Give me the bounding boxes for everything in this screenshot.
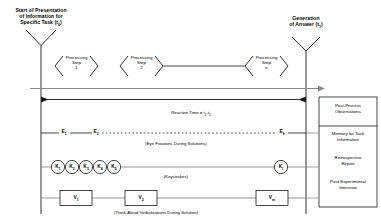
figure-canvas: Start of Presentation of Information for…	[0, 0, 381, 223]
start-marker-label-line2: of Information for	[19, 13, 62, 19]
start-marker-label-paren: )	[60, 19, 62, 25]
verbalization-node-v2: V2	[134, 195, 148, 203]
post-process-panel-header-line2: Observations	[335, 109, 361, 114]
keystroke-node-k5: K5	[107, 164, 121, 172]
end-marker-label-paren: )	[321, 21, 323, 27]
verbalization-node-v1-sub: 1	[77, 198, 79, 202]
verbalization-caption: (Think-Aloud Verbalizations During Solut…	[86, 210, 226, 215]
processing-step-n-number: n	[265, 65, 267, 70]
post-process-item-interview-line2: Interview	[339, 185, 357, 190]
post-process-item-memory-line1: Memory for Task	[332, 131, 364, 136]
keystroke-node-k3: K3	[79, 164, 93, 172]
end-marker-label-line2: of Answer (t	[289, 21, 319, 27]
keystroke-node-k1-sub: 1	[59, 167, 61, 171]
eye-fixation-node-e1-sub: 1	[65, 131, 67, 135]
end-marker-label-line1: Generation	[292, 15, 319, 21]
processing-step-n-label: Processing Step n	[246, 55, 287, 71]
post-process-panel-header: Post-Process Observations	[320, 103, 376, 114]
verbalization-node-vm: Vm	[265, 195, 279, 203]
keystroke-node-k3-sub: 3	[87, 167, 89, 171]
keystroke-node-k4: K4	[93, 164, 107, 172]
keystroke-node-kl-sub: l	[282, 167, 283, 171]
start-marker-label-line1: Start of Presentation	[15, 7, 66, 13]
eye-fixation-node-e2: E2	[89, 129, 103, 137]
verbalization-node-vm-sub: m	[272, 198, 275, 202]
verbalization-node-v2-sub: 2	[142, 198, 144, 202]
keystroke-node-k1: K1	[51, 164, 65, 172]
post-process-panel-header-line1: Post-Process	[335, 103, 361, 108]
reaction-time-sub-b: 0	[209, 113, 211, 117]
post-process-item-retrospective-line2: Report	[341, 161, 354, 166]
start-marker-label: Start of Presentation of Information for…	[0, 7, 85, 29]
keystroke-caption: (Keystrokes)	[141, 174, 211, 179]
end-marker-vee	[292, 37, 320, 214]
reaction-time-arrowhead-right	[299, 97, 307, 103]
end-marker-label: Generation of Answer (t1)	[271, 15, 341, 30]
eye-fixation-node-e1: E1	[57, 129, 71, 137]
reaction-time-arrowhead-left	[41, 97, 49, 103]
eye-fixation-node-ek-sub: k	[283, 131, 285, 135]
processing-step-2-label: Processing Step 2	[121, 55, 162, 71]
reaction-time-text-a: Reaction Time = t	[171, 110, 205, 115]
post-process-item-memory[interactable]: Memory for Task Information	[320, 131, 376, 142]
reaction-time-label: Reaction Time = t1-t0	[136, 110, 246, 118]
keystroke-node-k2-sub: 2	[73, 167, 75, 171]
keystroke-node-k2: K2	[65, 164, 79, 172]
keystroke-node-k5-sub: 5	[115, 167, 117, 171]
start-marker-label-line3: Specific Task (t	[20, 19, 58, 25]
processing-step-1-number: 1	[75, 65, 77, 70]
keystroke-node-k4-sub: 4	[101, 167, 103, 171]
eye-fixation-caption: (Eye Fixations During Solutions)	[121, 141, 231, 146]
verbalization-node-v1: V1	[69, 195, 83, 203]
post-process-item-retrospective[interactable]: Retrospective Report	[320, 155, 376, 166]
eye-fixation-node-e2-sub: 2	[97, 131, 99, 135]
post-process-item-interview[interactable]: Post-Experimental Interview	[318, 179, 378, 190]
start-marker-vee	[26, 30, 56, 214]
post-process-item-retrospective-line1: Retrospective	[335, 155, 362, 160]
post-process-item-memory-line2: Information	[337, 137, 359, 142]
eye-fixation-node-ek: Ek	[275, 129, 289, 137]
processing-step-2-number: 2	[140, 65, 142, 70]
post-process-item-interview-line1: Post-Experimental	[330, 179, 366, 184]
processing-step-1-label: Processing Step 1	[56, 55, 97, 71]
keystroke-node-kl: Kl	[274, 164, 288, 172]
process-axis-arrowhead	[318, 86, 325, 92]
